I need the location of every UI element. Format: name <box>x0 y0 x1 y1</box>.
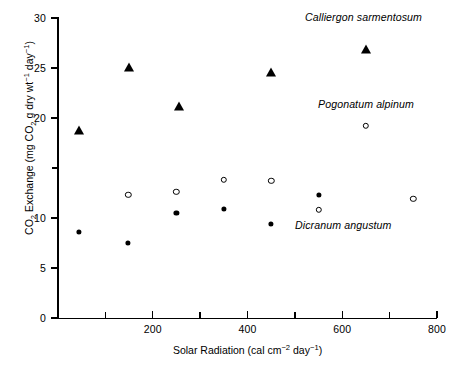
y-tick-label-5: 5 <box>0 263 46 274</box>
x-axis-title: Solar Radiation (cal cm−2 day−1) <box>58 344 437 356</box>
x-tick-300 <box>199 312 200 318</box>
x-tick-600 <box>342 311 343 318</box>
x-tick-500 <box>294 312 295 318</box>
y-tick-10 <box>51 217 58 218</box>
y-axis-title: CO2 Exchange (mg CO2 g dry wt−1 day−1) <box>23 13 35 263</box>
x-tick-label-600: 600 <box>322 324 362 335</box>
x-tick-700 <box>389 312 390 318</box>
data-point-open-circle <box>268 178 274 184</box>
x-tick-400 <box>247 311 248 318</box>
y-tick-0 <box>51 317 58 318</box>
x-axis-title-text: Solar Radiation (cal cm−2 day−1) <box>173 344 322 356</box>
y-tick-15 <box>52 167 58 168</box>
data-point-filled-circle <box>174 210 179 215</box>
species-label-2: Dicranum angustum <box>295 219 392 231</box>
data-point-open-circle <box>363 123 369 129</box>
x-tick-label-400: 400 <box>228 324 268 335</box>
data-point-filled-circle <box>221 206 226 211</box>
data-point-open-circle <box>410 196 416 202</box>
x-tick-label-200: 200 <box>133 324 173 335</box>
y-axis-title-text: CO2 Exchange (mg CO2 g dry wt−1 day−1) <box>23 41 35 235</box>
y-tick-30 <box>51 17 58 18</box>
y-tick-25 <box>51 67 58 68</box>
y-tick-5 <box>51 267 58 268</box>
data-point-filled-circle <box>316 192 321 197</box>
data-point-filled-triangle <box>74 125 84 134</box>
data-point-filled-circle <box>269 221 274 226</box>
data-point-filled-triangle <box>266 67 276 76</box>
data-point-filled-circle <box>126 240 131 245</box>
data-point-filled-triangle <box>124 62 134 71</box>
data-point-open-circle <box>173 189 179 195</box>
clipped-caption <box>22 362 442 369</box>
x-tick-label-800: 800 <box>417 324 457 335</box>
figure-scatter-plot: 0510202530 200400600800 CO2 Exchange (mg… <box>0 0 460 371</box>
data-point-filled-triangle <box>174 101 184 110</box>
x-tick-100 <box>105 312 106 318</box>
data-point-open-circle <box>125 192 131 198</box>
data-point-filled-triangle <box>361 44 371 53</box>
data-point-filled-circle <box>76 229 81 234</box>
species-label-0: Calliergon sarmentosum <box>305 11 422 23</box>
y-tick-20 <box>51 117 58 118</box>
y-tick-label-0: 0 <box>0 313 46 324</box>
data-point-open-circle <box>315 207 321 213</box>
data-point-open-circle <box>221 177 227 183</box>
x-tick-200 <box>152 311 153 318</box>
x-tick-800 <box>436 311 437 318</box>
species-label-1: Pogonatum alpinum <box>318 98 414 110</box>
